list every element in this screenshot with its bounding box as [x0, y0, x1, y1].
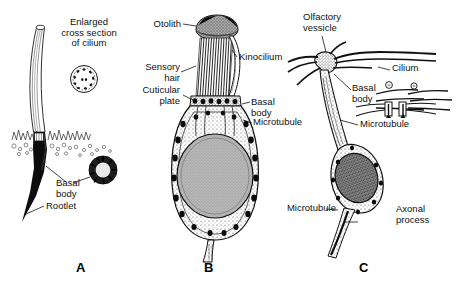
cilium-shaft	[30, 25, 45, 132]
label-microtubule-c-lower: Microtubule	[268, 203, 336, 214]
basal-nerve-fiber	[203, 240, 214, 262]
label-enlarged-cross-section: Enlarged cross section of cilium	[46, 17, 132, 49]
label-basal-body-a: Basal body	[56, 178, 96, 199]
panel-letter-a: A	[76, 260, 85, 275]
label-otolith: Otolith	[131, 19, 181, 30]
panel-letter-b: B	[204, 260, 213, 275]
label-microtubule-c-upper: Microtubule	[360, 119, 426, 130]
olfactory-dendrite	[320, 70, 348, 150]
apical-vesicles	[12, 143, 112, 156]
label-rootlet: Rootlet	[46, 201, 92, 212]
label-sensory-hair: Sensory hair	[124, 62, 180, 83]
hair-cell-body	[171, 106, 259, 240]
axoneme-cross-section-inset	[71, 66, 98, 93]
sensory-hair-bundle	[196, 38, 233, 96]
label-basal-body-c: Basal body	[352, 83, 390, 104]
cuticular-plate	[190, 96, 241, 106]
label-axonal-process: Axonal process	[396, 204, 446, 225]
label-olfactory-vessicle: Olfactory vessicle	[303, 12, 359, 33]
label-kinocilium: Kinocilium	[239, 52, 301, 63]
label-cuticular-plate: Cuticular plate	[122, 85, 180, 106]
figure-canvas: Enlarged cross section of cilium Basal b…	[0, 0, 459, 288]
olfactory-soma	[329, 145, 384, 215]
label-microtubule-b: Microtubule	[253, 117, 319, 128]
panel-letter-c: C	[359, 260, 368, 275]
label-cilium: Cilium	[392, 63, 436, 74]
label-basal-body-b: Basal body	[251, 97, 289, 118]
axonal-process	[328, 208, 355, 258]
apical-membrane	[12, 130, 91, 140]
